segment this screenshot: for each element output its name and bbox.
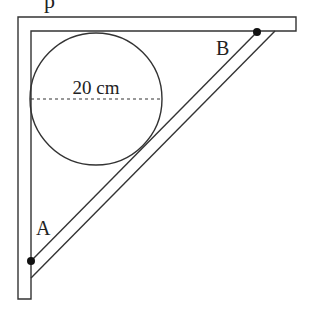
point-a-label: A <box>36 217 51 239</box>
point-b-label: B <box>216 37 229 59</box>
point-b-dot <box>253 28 261 36</box>
partial-top-text: p <box>44 0 55 13</box>
bracket-diagram: p 20 cm B A <box>0 0 309 310</box>
diameter-label: 20 cm <box>73 77 120 98</box>
brace-outer-edge <box>31 31 275 278</box>
brace-inner-edge <box>31 32 257 261</box>
l-bracket-frame <box>18 17 296 299</box>
point-a-dot <box>27 257 35 265</box>
